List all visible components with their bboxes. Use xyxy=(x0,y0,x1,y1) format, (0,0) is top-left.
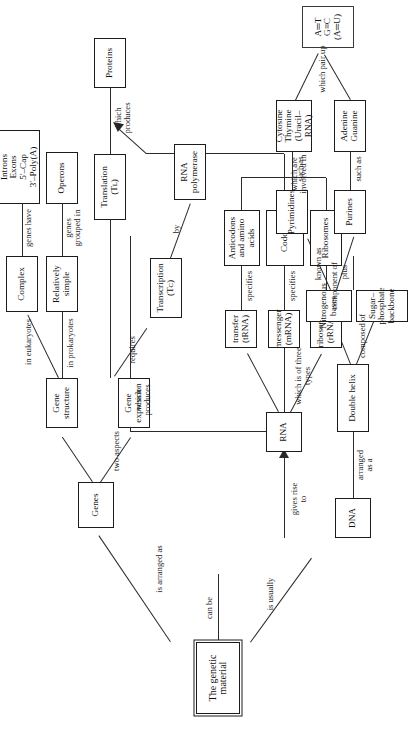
label-in-eukaryotes: in eukaryotes xyxy=(24,310,33,374)
node-adenine-guanine[interactable]: Adenine Guanine xyxy=(334,100,366,152)
edge-rna-whichproduces-v xyxy=(130,431,270,432)
label-component-of: component of xyxy=(330,262,339,310)
edge-rna-trna xyxy=(247,353,279,412)
label-in-prokaryotes: in prokaryotes xyxy=(66,310,75,376)
node-base-pairs[interactable]: A═T G≡C (A═U) xyxy=(302,6,354,48)
node-rna-polymerase[interactable]: RNA polymerase xyxy=(174,144,206,200)
edge-plus-connector xyxy=(353,256,354,290)
node-introns-exons[interactable]: Introns Exons 5'–Cap 3'–Poly(A) xyxy=(0,130,40,204)
edge-adenine-pairs xyxy=(324,54,351,100)
label-is-usually: is usually xyxy=(266,566,275,622)
node-complex[interactable]: Complex xyxy=(6,256,38,312)
edge-structure-simple xyxy=(62,312,63,378)
node-transcription[interactable]: Transcription (Tᴄ) xyxy=(150,258,182,318)
label-such-as-purines: such as xyxy=(354,152,363,186)
node-gene-structure[interactable]: Gene structure xyxy=(46,378,78,428)
label-is-arranged-as: is arranged as xyxy=(155,526,164,612)
node-dna[interactable]: DNA xyxy=(335,498,371,538)
concept-map-canvas: The genetic material Genes Gene expressi… xyxy=(0,0,410,734)
label-which-produces-proteins: which produces xyxy=(114,92,132,144)
label-can-be: can be xyxy=(205,586,214,630)
edge-rna-mrna xyxy=(284,348,285,412)
label-known-as: known as xyxy=(314,242,323,286)
label-genes-have: genes have xyxy=(24,202,33,254)
label-which-is-of-three-types: which is of three types xyxy=(294,338,312,414)
node-proteins[interactable]: Proteins xyxy=(94,38,126,88)
edge-cytosine-pairs xyxy=(295,53,319,100)
edge-expression-translation xyxy=(110,220,111,378)
edge-root-dna xyxy=(250,558,312,643)
edge-purines-adenine xyxy=(350,152,351,190)
label-specifies-trna: specifies xyxy=(245,264,254,308)
label-arranged-as-a: arranged as a xyxy=(356,438,374,492)
label-requires: requires xyxy=(128,326,137,374)
node-rna[interactable]: RNA xyxy=(266,412,302,452)
node-cytosine-thymine[interactable]: Cytosine Thymine (Uracil–RNA) xyxy=(276,100,312,152)
node-double-helix[interactable]: Double helix xyxy=(337,364,369,432)
edge-trna-anticodons xyxy=(241,266,242,310)
edge-dna-doublehelix xyxy=(353,432,354,498)
label-which-produces-rna: which produces xyxy=(134,374,152,426)
edge-genes-structure xyxy=(62,437,93,482)
edge-dna-rna xyxy=(284,452,285,538)
label-by: by xyxy=(172,220,181,238)
edge-involved-riser xyxy=(146,153,284,154)
edge-ribosomes-join xyxy=(326,178,327,210)
edge-mrna-codons xyxy=(284,266,285,310)
node-root[interactable]: The genetic material xyxy=(196,642,240,714)
label-gives-rise-to: gives rise to xyxy=(290,472,308,526)
edge-involved-bus xyxy=(241,177,326,178)
label-composed-of: composed of xyxy=(358,310,367,362)
label-genes-grouped-in: genes grouped in xyxy=(64,202,82,254)
concept-map: The genetic material Genes Gene expressi… xyxy=(0,0,410,734)
label-such-as-pyrimidines: such as xyxy=(296,152,305,186)
label-two-aspects: two aspects xyxy=(112,420,121,482)
label-which-pair-up: which pair up xyxy=(318,44,327,94)
label-plus: plus xyxy=(340,260,349,284)
node-genes[interactable]: Genes xyxy=(78,482,114,528)
node-purines[interactable]: Purines xyxy=(334,190,366,234)
edge-root-canbe xyxy=(218,574,219,642)
edge-translation-proteins xyxy=(110,88,111,154)
node-translation[interactable]: Translation (Tʟ) xyxy=(94,154,126,220)
node-operons[interactable]: Operons xyxy=(46,152,78,204)
edge-anticodons-join xyxy=(241,178,242,210)
label-specifies-mrna: specifies xyxy=(288,264,297,308)
node-transfer-rna[interactable]: transfer (tRNA) xyxy=(225,310,257,348)
node-relatively-simple[interactable]: Relatively simple xyxy=(46,256,78,312)
node-anticodons[interactable]: Anticodons and amino acids xyxy=(224,210,260,266)
